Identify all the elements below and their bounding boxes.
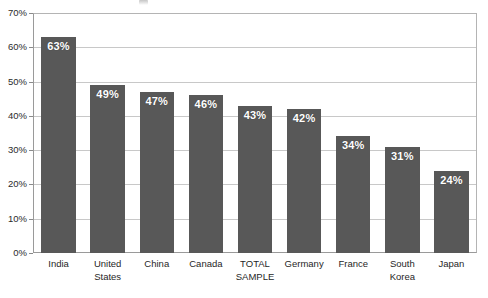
bar[interactable]: 31% xyxy=(385,147,419,253)
bar[interactable]: 43% xyxy=(238,106,272,253)
bar-value-label: 49% xyxy=(90,88,124,101)
bar-slot: 46% xyxy=(189,13,223,253)
x-axis-category-label: Canada xyxy=(181,258,230,271)
bar-slot: 31% xyxy=(385,13,419,253)
bar-value-label: 24% xyxy=(434,174,468,187)
y-tick-label: 40% xyxy=(8,111,27,121)
bar[interactable]: 24% xyxy=(434,171,468,253)
x-axis-category-label: China xyxy=(132,258,181,271)
x-axis-category-label: TOTAL SAMPLE xyxy=(230,258,279,283)
x-axis-labels: IndiaUnited StatesChinaCanadaTOTAL SAMPL… xyxy=(34,258,476,296)
bar-value-label: 31% xyxy=(385,150,419,163)
bar-slot: 49% xyxy=(90,13,124,253)
bar-value-label: 46% xyxy=(189,98,223,111)
bar-value-label: 43% xyxy=(238,109,272,122)
x-axis-category-label: France xyxy=(329,258,378,271)
bar-slot: 24% xyxy=(434,13,468,253)
x-axis-category-label: Japan xyxy=(427,258,476,271)
bar[interactable]: 63% xyxy=(41,37,75,253)
bar[interactable]: 49% xyxy=(90,85,124,253)
bars-layer: 63%49%47%46%43%42%34%31%24% xyxy=(34,13,476,253)
bar-slot: 47% xyxy=(140,13,174,253)
bar[interactable]: 42% xyxy=(287,109,321,253)
bar-value-label: 42% xyxy=(287,112,321,125)
bar[interactable]: 34% xyxy=(336,136,370,253)
y-tick-mark xyxy=(29,253,33,254)
y-tick-label: 50% xyxy=(8,77,27,87)
x-axis-category-label: South Korea xyxy=(378,258,427,283)
bar-chart: 0%10%20%30%40%50%60%70% 63%49%47%46%43%4… xyxy=(0,0,488,298)
y-tick-label: 60% xyxy=(8,42,27,52)
bar-slot: 34% xyxy=(336,13,370,253)
bar-slot: 42% xyxy=(287,13,321,253)
bar-value-label: 47% xyxy=(140,95,174,108)
x-axis-category-label: United States xyxy=(83,258,132,283)
bar-slot: 43% xyxy=(238,13,272,253)
y-tick-label: 0% xyxy=(13,248,27,258)
bar[interactable]: 47% xyxy=(140,92,174,253)
bar-value-label: 34% xyxy=(336,139,370,152)
y-axis: 0%10%20%30%40%50%60%70% xyxy=(0,0,33,298)
y-tick-label: 70% xyxy=(8,8,27,18)
bar[interactable]: 46% xyxy=(189,95,223,253)
y-tick-label: 10% xyxy=(8,214,27,224)
cropped-title-artifact xyxy=(139,0,148,5)
x-axis-category-label: India xyxy=(34,258,83,271)
y-tick-label: 30% xyxy=(8,145,27,155)
bar-slot: 63% xyxy=(41,13,75,253)
y-tick-label: 20% xyxy=(8,179,27,189)
bar-value-label: 63% xyxy=(41,40,75,53)
x-axis-category-label: Germany xyxy=(280,258,329,271)
